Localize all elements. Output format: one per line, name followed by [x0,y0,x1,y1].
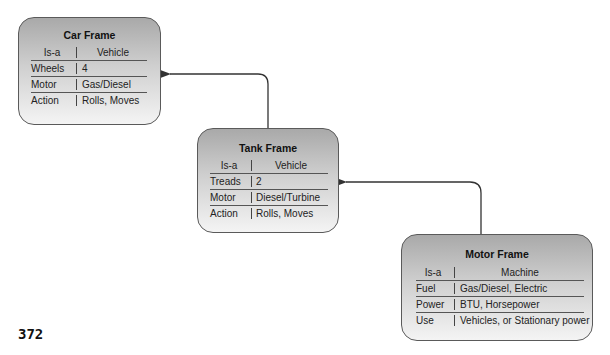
row-key: Power [416,297,444,312]
table-row: Wheels 4 [31,61,147,77]
arrow-tank-to-car [170,74,268,128]
row-key: Action [210,206,238,221]
row-key: Wheels [31,61,64,76]
table-row: Motor Diesel/Turbine [210,190,328,206]
car-frame: Car Frame Is-a Vehicle Wheels 4 Motor Ga… [18,17,161,125]
row-value: Rolls, Moves [82,93,139,108]
row-value: 4 [82,61,88,76]
table-row: Treads 2 [210,174,328,190]
row-value: 2 [256,174,262,189]
table-row: Power BTU, Horsepower [416,297,584,313]
table-row: Action Rolls, Moves [31,93,147,108]
row-key: Motor [31,77,57,92]
table-row: Motor Gas/Diesel [31,77,147,93]
table-row: Fuel Gas/Diesel, Electric [416,281,584,297]
frame-title: Motor Frame [402,248,592,260]
header-key: Is-a [31,45,73,60]
header-value: Vehicle [254,158,328,173]
row-key: Treads [210,174,241,189]
row-value: Rolls, Moves [256,206,313,221]
header-key: Is-a [210,158,248,173]
header-value: Machine [456,265,584,280]
row-value: Diesel/Turbine [256,190,320,205]
table-row: Use Vehicles, or Stationary power [416,313,584,328]
frame-title: Tank Frame [198,142,338,154]
table-row: Action Rolls, Moves [210,206,328,221]
arrow-motor-to-tank [346,182,481,234]
row-key: Fuel [416,281,435,296]
row-value: Gas/Diesel [82,77,131,92]
table-header-row: Is-a Vehicle [210,158,328,174]
row-value: Gas/Diesel, Electric [460,281,547,296]
row-value: BTU, Horsepower [460,297,539,312]
frame-title: Car Frame [19,29,160,41]
row-value: Vehicles, or Stationary power [460,313,590,328]
tank-frame: Tank Frame Is-a Vehicle Treads 2 Motor D… [197,128,339,233]
table-header-row: Is-a Vehicle [31,45,147,61]
row-key: Motor [210,190,236,205]
header-value: Vehicle [79,45,147,60]
header-key: Is-a [416,265,450,280]
motor-frame: Motor Frame Is-a Machine Fuel Gas/Diesel… [401,234,593,341]
table-header-row: Is-a Machine [416,265,584,281]
row-key: Action [31,93,59,108]
row-key: Use [416,313,434,328]
page-number: 372 [18,326,43,342]
